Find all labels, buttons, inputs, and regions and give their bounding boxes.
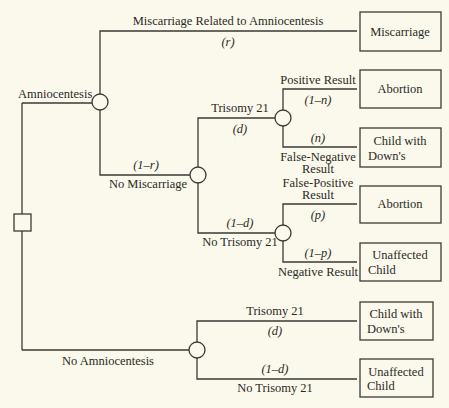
outcome-miscarriage: Miscarriage [370,25,430,39]
label-no-amniocentesis: No Amniocentesis [62,354,154,368]
label-no-miscarriage: No Miscarriage [109,177,188,191]
label-negative-result: Negative Result [278,265,359,279]
label-false-negative-2: Result [302,162,334,176]
prob-r: (r) [221,35,234,49]
prob-n: (n) [311,131,326,145]
label-trisomy-21-a: Trisomy 21 [211,101,269,115]
prob-p: (p) [311,208,326,222]
outcome-abortion-1: Abortion [377,82,423,96]
outcome-unaffected-2b: Child [367,379,396,393]
decision-tree-diagram: Amniocentesis Miscarriage Related to Amn… [0,0,449,408]
outcome-unaffected-1a: Unaffected [372,248,428,262]
prob-1-p: (1–p) [304,246,331,260]
label-positive-result: Positive Result [280,73,356,87]
outcome-unaffected-1b: Child [368,263,397,277]
prob-1-d-a: (1–d) [226,216,253,230]
prob-1-d-b: (1–d) [261,362,288,376]
label-trisomy-21-b: Trisomy 21 [246,304,304,318]
label-miscarriage-related: Miscarriage Related to Amniocentesis [133,14,324,28]
outcome-downs-2b: Down's [367,322,405,336]
label-amniocentesis: Amniocentesis [18,87,92,101]
chance-node-trisomy [275,110,291,126]
prob-1-r: (1–r) [133,158,159,172]
outcome-abortion-2: Abortion [377,197,423,211]
outcome-downs-1a: Child with [373,134,427,148]
outcome-downs-2a: Child with [369,307,423,321]
prob-1-n: (1–n) [304,93,331,107]
outcome-unaffected-2a: Unaffected [368,365,424,379]
label-no-trisomy-a: No Trisomy 21 [202,235,278,249]
chance-node-no-miscarriage [190,167,206,183]
label-no-trisomy-b: No Trisomy 21 [237,381,313,395]
prob-d-a: (d) [233,122,248,136]
chance-node-no-amnio [189,342,205,358]
prob-d-b: (d) [268,324,283,338]
chance-node-amnio [92,94,108,110]
decision-node-square [14,214,31,231]
label-false-positive-2: Result [302,188,334,202]
outcome-downs-1b: Down's [368,149,406,163]
diagram-canvas: Amniocentesis Miscarriage Related to Amn… [0,0,449,408]
